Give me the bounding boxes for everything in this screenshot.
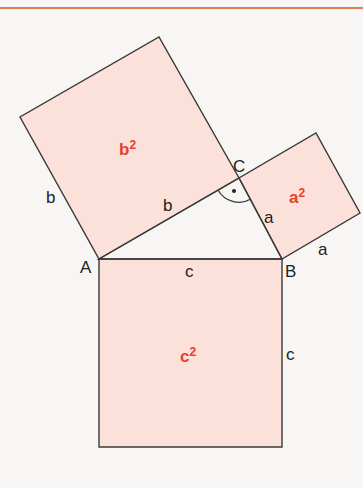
side-label-b-inner: b bbox=[163, 196, 172, 215]
right-angle-dot bbox=[232, 189, 236, 193]
side-label-a-inner: a bbox=[264, 208, 274, 227]
vertex-label-a: A bbox=[80, 258, 92, 277]
pythagoras-diagram: A B C b b a a c c b2 a2 c2 bbox=[0, 0, 363, 488]
side-label-b-outer: b bbox=[46, 188, 55, 207]
vertex-label-b: B bbox=[285, 262, 296, 281]
side-label-c-top: c bbox=[185, 262, 194, 281]
side-label-a-outer: a bbox=[318, 240, 328, 259]
side-label-c-right: c bbox=[286, 345, 295, 364]
vertex-label-c: C bbox=[233, 157, 245, 176]
